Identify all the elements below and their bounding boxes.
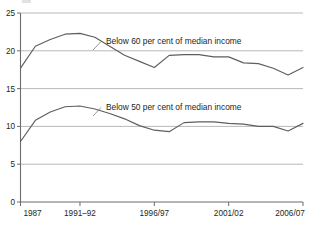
line-chart: 0510152025 19871991–921996/972001/022006… [0,0,317,227]
x-tick-label: 1987 [23,209,42,218]
x-tick-label: 1996/97 [140,209,170,218]
x-tick-label: 2001/02 [214,209,244,218]
x-axis-ticks: 19871991–921996/972001/022006/07 [21,202,306,218]
chart-canvas: 0510152025 19871991–921996/972001/022006… [0,0,317,227]
series-label: Below 50 per cent of median income [106,102,242,112]
y-tick-label: 15 [6,85,16,94]
y-tick-label: 10 [6,122,16,131]
y-tick-label: 5 [10,160,15,169]
y-tick-label: 25 [6,9,16,18]
series-label: Below 60 per cent of median income [106,36,242,46]
y-tick-label: 0 [10,198,15,207]
series-labels: Below 60 per cent of median incomeBelow … [106,36,242,112]
y-axis-ticks: 0510152025 [6,9,21,207]
x-tick-label: 1991–92 [64,209,96,218]
cropped-title-artifact [22,0,31,3]
leader-line [93,42,101,51]
label-leader-lines [93,42,101,117]
data-series [21,33,304,141]
x-tick-label: 2006/07 [275,209,305,218]
y-tick-label: 20 [6,47,16,56]
